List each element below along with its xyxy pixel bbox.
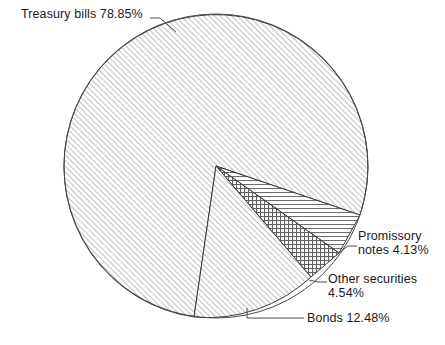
leader-line-other-securities: [309, 280, 327, 282]
slice-label-promissory-notes: Promissory notes 4.13%: [358, 229, 429, 257]
pie-chart: Treasury bills 78.85% Promissory notes 4…: [0, 0, 445, 345]
slice-label-other-securities: Other securities 4.54%: [328, 272, 417, 300]
slice-label-treasury-bills: Treasury bills 78.85%: [21, 7, 143, 21]
slice-label-bonds: Bonds 12.48%: [307, 311, 390, 325]
